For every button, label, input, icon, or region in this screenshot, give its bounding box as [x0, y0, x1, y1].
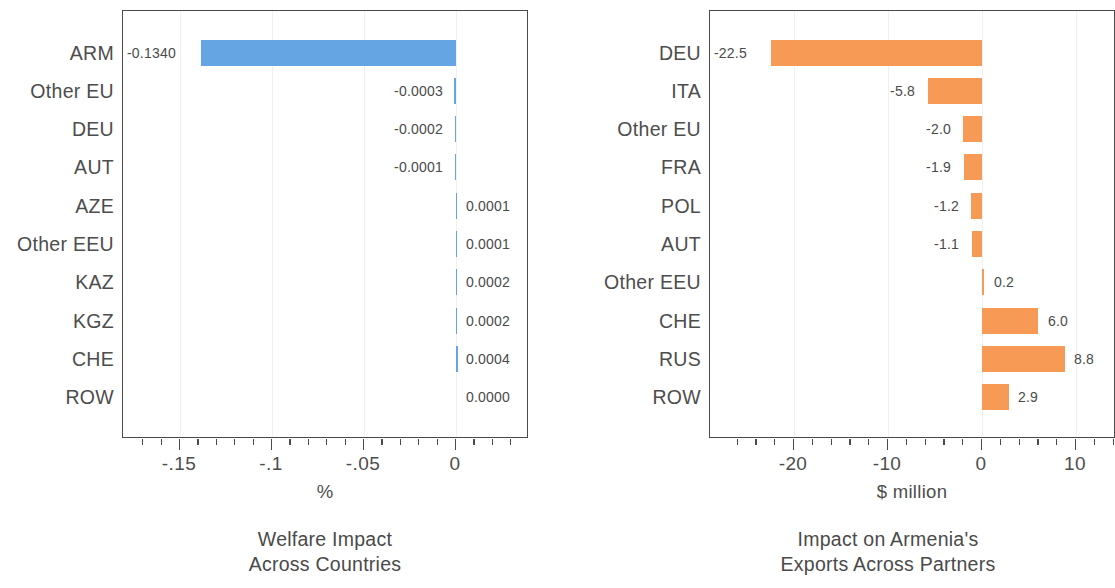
category-label: AUT	[74, 156, 114, 179]
x-axis-title-right: $ million	[709, 481, 1115, 503]
axis-tick-minor	[1094, 439, 1095, 445]
axis-tick-label: 10	[1064, 453, 1086, 475]
axis-tick-minor	[142, 439, 143, 445]
axis-tick	[887, 439, 888, 450]
category-label: Other EEU	[604, 271, 701, 294]
caption-line-2: Exports Across Partners	[685, 552, 1091, 577]
axis-tick-minor	[774, 439, 775, 445]
bar-row: ARM -0.1340	[123, 34, 527, 72]
axis-tick-minor	[925, 439, 926, 445]
panel-exports-impact: DEU -22.5 ITA -5.8 Other EU -2.0 FRA -1.…	[550, 0, 1101, 588]
category-label: ITA	[671, 80, 701, 103]
bar-row: KGZ 0.0002	[123, 302, 527, 340]
bar	[982, 346, 1065, 372]
axis-tick-minor	[216, 439, 217, 445]
axis-tick-minor	[326, 439, 327, 445]
category-label: Other EU	[617, 118, 701, 141]
value-label: 0.0004	[466, 351, 510, 367]
bar-row: POL -1.2	[710, 187, 1114, 225]
value-label: 2.9	[1018, 389, 1038, 405]
axis-tick-minor	[868, 439, 869, 445]
category-label: AZE	[75, 195, 114, 218]
value-label: -1.1	[934, 236, 959, 252]
axis-tick-label: -10	[873, 453, 902, 475]
category-label: ROW	[652, 386, 701, 409]
category-label: KGZ	[73, 310, 114, 333]
value-label: -2.0	[926, 121, 951, 137]
bar	[456, 269, 457, 295]
axis-tick	[455, 439, 456, 450]
value-label: -22.5	[714, 45, 747, 61]
bar-row: ITA -5.8	[710, 72, 1114, 110]
axis-tick-minor	[510, 439, 511, 445]
bar	[455, 116, 456, 142]
value-label: -0.0002	[394, 121, 443, 137]
axis-tick-minor	[1037, 439, 1038, 445]
caption-line-2: Across Countries	[122, 552, 528, 577]
bar	[982, 269, 984, 295]
bar-row: Other EU -0.0003	[123, 72, 527, 110]
category-label: DEU	[72, 118, 114, 141]
axis-tick-minor	[161, 439, 162, 445]
axis-tick-minor	[1019, 439, 1020, 445]
category-label: AUT	[661, 233, 701, 256]
axis-tick	[271, 439, 272, 450]
bar	[456, 346, 458, 372]
axis-tick-minor	[400, 439, 401, 445]
category-label: RUS	[659, 348, 701, 371]
axis-tick	[981, 439, 982, 450]
caption-line-1: Impact on Armenia's	[685, 527, 1091, 552]
category-label: DEU	[659, 42, 701, 65]
bar-row: DEU -0.0002	[123, 110, 527, 148]
plot-area-right: DEU -22.5 ITA -5.8 Other EU -2.0 FRA -1.…	[709, 10, 1115, 438]
bar-row: AUT -1.1	[710, 225, 1114, 263]
category-label: Other EU	[30, 80, 114, 103]
bar-row: Other EU -2.0	[710, 110, 1114, 148]
axis-tick-minor	[1113, 439, 1114, 445]
bar	[971, 193, 982, 219]
bar	[456, 308, 457, 334]
bar-row: CHE 6.0	[710, 302, 1114, 340]
axis-tick	[1075, 439, 1076, 450]
value-label: -1.9	[926, 159, 951, 175]
axis-tick-minor	[755, 439, 756, 445]
bar-row: Other EEU 0.0001	[123, 225, 527, 263]
bar-row: KAZ 0.0002	[123, 263, 527, 301]
axis-tick-label: 0	[450, 453, 461, 475]
bar	[771, 40, 983, 66]
value-label: -1.2	[934, 198, 959, 214]
axis-tick	[179, 439, 180, 450]
axis-tick-minor	[381, 439, 382, 445]
axis-tick-minor	[437, 439, 438, 445]
bar-row: DEU -22.5	[710, 34, 1114, 72]
x-axis-left: -.15 -.1 -.05 0	[122, 439, 528, 479]
axis-tick-label: -.1	[259, 453, 282, 475]
bar	[982, 384, 1009, 410]
bar	[928, 78, 983, 104]
bar-row: Other EEU 0.2	[710, 263, 1114, 301]
bar	[972, 231, 982, 257]
value-label: 6.0	[1048, 313, 1068, 329]
value-label: -5.8	[890, 83, 915, 99]
value-label: -0.0003	[394, 83, 443, 99]
axis-tick-minor	[197, 439, 198, 445]
axis-tick-minor	[289, 439, 290, 445]
bar	[456, 231, 457, 257]
value-label: 0.0001	[466, 236, 510, 252]
value-label: -0.0001	[394, 159, 443, 175]
axis-tick-minor	[812, 439, 813, 445]
axis-tick-label: 0	[976, 453, 987, 475]
axis-tick-minor	[418, 439, 419, 445]
value-label: 0.2	[994, 274, 1014, 290]
value-label: 0.0002	[466, 274, 510, 290]
axis-tick-minor	[473, 439, 474, 445]
category-label: POL	[661, 195, 701, 218]
bar-row: ROW 0.0000	[123, 378, 527, 416]
category-label: Other EEU	[17, 233, 114, 256]
axis-tick-minor	[308, 439, 309, 445]
axis-tick-minor	[943, 439, 944, 445]
panel-welfare-impact: ARM -0.1340 Other EU -0.0003 DEU -0.0002…	[0, 0, 550, 588]
x-axis-title-left: %	[122, 481, 528, 503]
axis-tick-minor	[492, 439, 493, 445]
bar-row: RUS 8.8	[710, 340, 1114, 378]
